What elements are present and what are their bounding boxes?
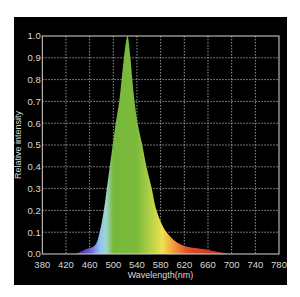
y-tick-labels: 0.00.10.20.30.40.50.60.70.80.91.0: [28, 30, 41, 259]
y-tick-label: 0.8: [28, 74, 41, 85]
y-tick-label: 0.0: [28, 248, 41, 259]
x-tick-label: 500: [105, 259, 121, 270]
y-tick-label: 0.5: [28, 139, 41, 150]
y-tick-label: 0.6: [28, 118, 41, 129]
y-tick-label: 0.4: [28, 161, 41, 172]
x-tick-label: 660: [200, 259, 216, 270]
x-axis-title: Wavelength(nm): [128, 270, 194, 280]
y-tick-label: 0.3: [28, 183, 41, 194]
x-tick-label: 620: [176, 259, 192, 270]
x-tick-label: 780: [271, 259, 287, 270]
x-tick-labels: 380420460500540580620660700740780: [34, 259, 287, 270]
y-tick-label: 0.1: [28, 227, 41, 238]
y-tick-label: 1.0: [28, 30, 41, 41]
x-tick-label: 460: [82, 259, 98, 270]
x-tick-label: 580: [153, 259, 169, 270]
x-tick-label: 420: [58, 259, 74, 270]
y-tick-label: 0.9: [28, 52, 41, 63]
y-tick-label: 0.7: [28, 96, 41, 107]
grid-lines: [42, 36, 279, 254]
x-tick-label: 740: [247, 259, 263, 270]
x-tick-label: 380: [34, 259, 50, 270]
y-tick-label: 0.2: [28, 205, 41, 216]
spectrum-chart: 0.00.10.20.30.40.50.60.70.80.91.0 380420…: [0, 0, 300, 297]
x-tick-label: 540: [129, 259, 145, 270]
y-axis-title: Relative intensity: [13, 110, 23, 179]
x-tick-label: 700: [224, 259, 240, 270]
spectrum-area: [75, 36, 230, 254]
